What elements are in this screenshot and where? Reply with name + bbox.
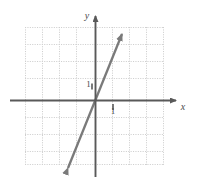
x-tick-label-1: 1 [111,106,116,116]
axes [10,16,176,177]
y-tick-label-1: 1 [86,79,91,89]
graph-canvas: 1 1 x y [0,0,199,183]
y-axis-label: y [84,10,90,21]
coordinate-graph-figure: 1 1 x y [0,0,199,183]
grid-lines [25,27,164,165]
x-axis-label: x [180,101,186,112]
